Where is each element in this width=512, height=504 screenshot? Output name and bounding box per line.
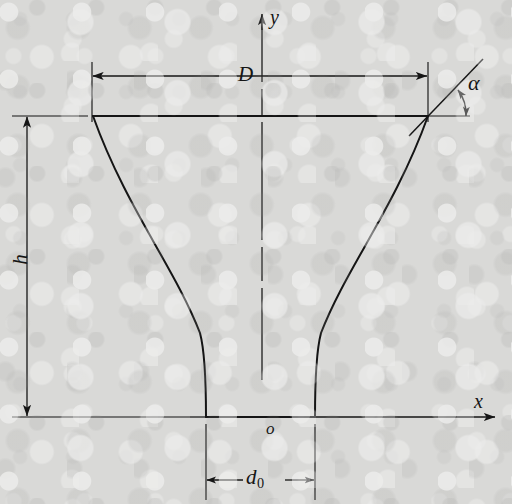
dimension-label-d0: d0 bbox=[246, 465, 264, 492]
nozzle-right-wall bbox=[315, 116, 428, 417]
origin-label: o bbox=[266, 419, 275, 439]
angle-label-alpha: α bbox=[468, 70, 480, 96]
nozzle-profile-drawing bbox=[0, 0, 512, 504]
y-axis-label: y bbox=[270, 6, 279, 29]
nozzle-left-wall bbox=[93, 116, 206, 417]
x-axis-label: x bbox=[474, 390, 483, 413]
figure-canvas: y x o D h d0 α bbox=[0, 0, 512, 504]
d0-symbol: d bbox=[246, 465, 257, 489]
dimension-label-D: D bbox=[238, 62, 253, 87]
coordinate-axes bbox=[190, 14, 495, 440]
nozzle-outline bbox=[93, 116, 428, 417]
witness-lines bbox=[12, 62, 428, 500]
d0-subscript: 0 bbox=[257, 475, 264, 491]
dimension-label-h: h bbox=[8, 254, 33, 265]
alpha-arc bbox=[458, 90, 466, 116]
